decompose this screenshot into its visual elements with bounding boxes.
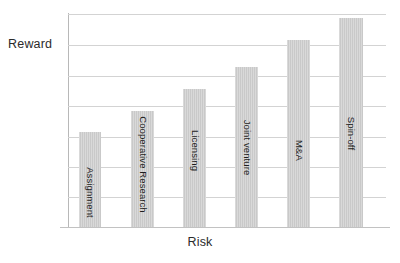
bar-label: Joint venture — [241, 120, 252, 176]
bar-label: M&A — [293, 140, 304, 161]
bar-cooperative-research[interactable]: Cooperative Research — [131, 111, 154, 227]
x-axis-line — [60, 227, 390, 228]
bar-label: Spin-off — [346, 117, 357, 150]
chart-screenshot: — — — — —— — — — Reward Assignment Coope… — [0, 0, 400, 263]
plot-area: Assignment Cooperative Research Licensin… — [68, 14, 386, 227]
bar-label: Cooperative Research — [137, 116, 148, 213]
bar-spin-off[interactable]: Spin-off — [339, 18, 363, 227]
x-axis-label: Risk — [0, 235, 400, 249]
y-axis-label: Reward — [8, 37, 52, 51]
bar-assignment[interactable]: Assignment — [79, 132, 101, 227]
bar-m-and-a[interactable]: M&A — [287, 40, 310, 227]
bar-joint-venture[interactable]: Joint venture — [235, 67, 258, 227]
bar-label: Licensing — [189, 130, 200, 171]
bar-label: Assignment — [85, 167, 96, 218]
gridline — [68, 14, 386, 15]
bar-licensing[interactable]: Licensing — [183, 89, 206, 227]
chart-title-cropped: — — — — —— — — — — [0, 0, 400, 6]
